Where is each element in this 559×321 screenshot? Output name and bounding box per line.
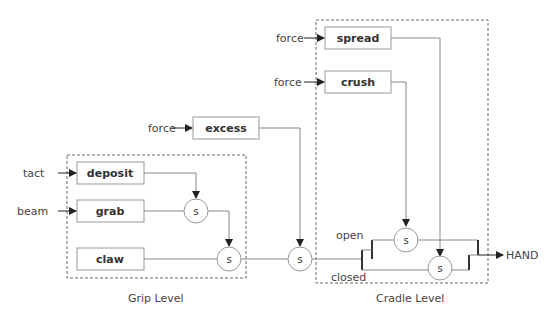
svg-text:s: s — [297, 254, 302, 265]
excess-label: excess — [205, 122, 247, 135]
open-suppressor-node: s — [394, 228, 418, 252]
open-branch-label: open — [336, 229, 363, 242]
deposit-to-switch1 — [144, 173, 196, 198]
spread-force-label: force — [276, 32, 304, 45]
spread-block: spread — [325, 27, 391, 49]
suppressor-node-3: s — [288, 247, 312, 271]
claw-label: claw — [96, 253, 124, 266]
switch1-to-switch2 — [208, 211, 229, 246]
spread-label: spread — [337, 32, 380, 45]
grip-level-caption: Grip Level — [128, 292, 184, 305]
svg-text:s: s — [226, 254, 231, 265]
tact-input-label: tact — [23, 167, 45, 180]
deposit-block: deposit — [77, 162, 144, 184]
svg-text:s: s — [403, 235, 408, 246]
crush-block: crush — [325, 71, 391, 93]
closed-suppressor-node: s — [428, 256, 452, 280]
excess-block: excess — [193, 117, 259, 139]
excess-to-switch3 — [259, 128, 300, 246]
subsumption-diagram: deposit grab claw excess spread crush ta… — [0, 0, 559, 321]
suppressor-node-1: s — [184, 199, 208, 223]
closed-branch-label: closed — [331, 271, 366, 284]
crush-label: crush — [341, 76, 375, 89]
grab-block: grab — [77, 200, 144, 222]
crush-force-label: force — [274, 76, 302, 89]
excess-force-label: force — [148, 122, 176, 135]
claw-block: claw — [77, 248, 144, 270]
beam-input-label: beam — [17, 205, 48, 218]
grab-label: grab — [96, 205, 125, 218]
cradle-level-caption: Cradle Level — [376, 292, 444, 305]
svg-text:s: s — [437, 263, 442, 274]
crush-to-open-switch — [391, 82, 406, 226]
deposit-label: deposit — [87, 167, 133, 180]
spread-to-closed-switch — [391, 38, 440, 256]
suppressor-node-2: s — [217, 247, 241, 271]
svg-text:s: s — [193, 206, 198, 217]
hand-output-label: HAND — [506, 249, 539, 262]
